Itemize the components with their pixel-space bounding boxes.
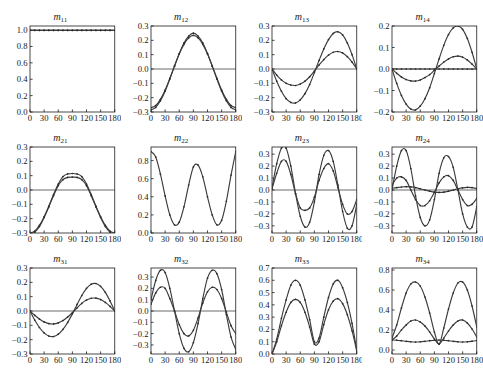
svg-text:0.7: 0.7 bbox=[258, 263, 269, 273]
svg-text:180: 180 bbox=[471, 355, 483, 365]
svg-text:60: 60 bbox=[295, 234, 304, 244]
svg-text:60: 60 bbox=[416, 355, 425, 365]
svg-text:0.6: 0.6 bbox=[258, 275, 269, 285]
subplot-canvas-m_14: −0.2−0.10.00.10.20306090120150180 bbox=[362, 9, 483, 130]
svg-text:120: 120 bbox=[80, 234, 93, 244]
svg-text:0.1: 0.1 bbox=[138, 50, 149, 60]
svg-text:−0.1: −0.1 bbox=[133, 317, 149, 327]
svg-text:90: 90 bbox=[189, 113, 198, 123]
svg-text:−0.3: −0.3 bbox=[12, 349, 28, 359]
svg-text:60: 60 bbox=[295, 355, 304, 365]
svg-text:0.8: 0.8 bbox=[17, 41, 28, 51]
svg-text:−0.3: −0.3 bbox=[374, 221, 390, 231]
svg-text:0.2: 0.2 bbox=[379, 161, 390, 171]
svg-text:0.0: 0.0 bbox=[17, 306, 28, 316]
subplot-canvas-m_24: −0.3−0.2−0.10.00.10.20.30306090120150180 bbox=[362, 130, 483, 251]
svg-text:60: 60 bbox=[416, 113, 425, 123]
svg-text:90: 90 bbox=[189, 234, 198, 244]
svg-text:0.2: 0.2 bbox=[17, 277, 28, 287]
svg-text:30: 30 bbox=[402, 113, 411, 123]
svg-text:60: 60 bbox=[175, 355, 184, 365]
svg-text:30: 30 bbox=[281, 355, 290, 365]
svg-text:−0.1: −0.1 bbox=[374, 86, 390, 96]
svg-text:150: 150 bbox=[456, 355, 469, 365]
svg-text:0.0: 0.0 bbox=[138, 306, 149, 316]
svg-text:0.6: 0.6 bbox=[17, 58, 28, 68]
subplot-m_23: m23−0.3−0.2−0.10.00.10.20.30306090120150… bbox=[242, 130, 363, 251]
svg-text:0.2: 0.2 bbox=[258, 35, 269, 45]
svg-text:0.0: 0.0 bbox=[379, 185, 390, 195]
svg-text:60: 60 bbox=[175, 234, 184, 244]
svg-text:30: 30 bbox=[40, 113, 49, 123]
svg-text:0.3: 0.3 bbox=[258, 21, 269, 31]
svg-text:0.1: 0.1 bbox=[379, 173, 390, 183]
svg-text:150: 150 bbox=[215, 113, 228, 123]
svg-text:90: 90 bbox=[430, 355, 439, 365]
subplot-canvas-m_23: −0.3−0.2−0.10.00.10.20.30306090120150180 bbox=[242, 130, 363, 251]
svg-text:150: 150 bbox=[94, 355, 107, 365]
curve-m_13-curve-small bbox=[272, 51, 357, 85]
svg-text:0: 0 bbox=[149, 113, 153, 123]
svg-text:180: 180 bbox=[471, 234, 483, 244]
svg-text:−0.2: −0.2 bbox=[374, 107, 390, 117]
svg-text:150: 150 bbox=[456, 113, 469, 123]
svg-text:0.1: 0.1 bbox=[138, 295, 149, 305]
curve-m_22-curve-1 bbox=[151, 152, 236, 226]
svg-text:60: 60 bbox=[295, 113, 304, 123]
svg-text:60: 60 bbox=[54, 234, 63, 244]
subplot-m_21: m21−0.3−0.2−0.10.00.10.20.30306090120150… bbox=[0, 130, 121, 251]
clipped-caption-strip bbox=[0, 0, 483, 9]
svg-text:30: 30 bbox=[281, 113, 290, 123]
svg-text:−0.3: −0.3 bbox=[133, 107, 149, 117]
svg-text:0: 0 bbox=[28, 234, 32, 244]
svg-text:150: 150 bbox=[336, 113, 349, 123]
svg-text:0.6: 0.6 bbox=[379, 285, 390, 295]
svg-text:30: 30 bbox=[161, 355, 170, 365]
svg-text:120: 120 bbox=[201, 113, 214, 123]
svg-text:0.0: 0.0 bbox=[379, 64, 390, 74]
svg-text:180: 180 bbox=[350, 234, 362, 244]
svg-text:0.1: 0.1 bbox=[17, 171, 28, 181]
svg-text:−0.2: −0.2 bbox=[253, 209, 269, 219]
subplot-canvas-m_31: −0.3−0.2−0.10.00.10.20.30306090120150180 bbox=[0, 251, 121, 372]
svg-text:0: 0 bbox=[149, 234, 153, 244]
curve-m_12-curve-1 bbox=[151, 35, 236, 107]
svg-text:−0.1: −0.1 bbox=[253, 78, 269, 88]
svg-text:−0.2: −0.2 bbox=[253, 93, 269, 103]
svg-text:−0.2: −0.2 bbox=[12, 214, 28, 224]
svg-text:180: 180 bbox=[229, 234, 241, 244]
svg-text:−0.3: −0.3 bbox=[253, 107, 269, 117]
svg-text:120: 120 bbox=[322, 234, 335, 244]
svg-text:0.2: 0.2 bbox=[379, 325, 390, 335]
curve-m_23-curve-small bbox=[272, 160, 357, 215]
svg-text:150: 150 bbox=[215, 355, 228, 365]
svg-text:−0.1: −0.1 bbox=[374, 197, 390, 207]
curve-m_13-curve-large bbox=[272, 32, 357, 103]
svg-text:−0.2: −0.2 bbox=[374, 209, 390, 219]
svg-text:120: 120 bbox=[322, 355, 335, 365]
subplot-canvas-m_32: −0.3−0.2−0.10.00.10.20.30306090120150180 bbox=[121, 251, 242, 372]
svg-text:30: 30 bbox=[40, 355, 49, 365]
svg-text:30: 30 bbox=[281, 234, 290, 244]
subplot-m_33: m330.00.10.20.30.40.50.60.70306090120150… bbox=[242, 251, 363, 372]
svg-text:0: 0 bbox=[28, 113, 32, 123]
svg-text:0.2: 0.2 bbox=[138, 210, 149, 220]
curve-m_14-curve-large bbox=[392, 26, 477, 110]
svg-text:0.0: 0.0 bbox=[17, 185, 28, 195]
svg-text:1.0: 1.0 bbox=[17, 25, 28, 35]
svg-text:120: 120 bbox=[442, 113, 455, 123]
svg-text:180: 180 bbox=[108, 113, 120, 123]
svg-text:0: 0 bbox=[269, 113, 273, 123]
svg-text:150: 150 bbox=[94, 234, 107, 244]
svg-text:180: 180 bbox=[108, 234, 120, 244]
svg-text:−0.1: −0.1 bbox=[12, 199, 28, 209]
curve-m_23-curve-large bbox=[272, 146, 357, 229]
svg-text:150: 150 bbox=[215, 234, 228, 244]
svg-text:30: 30 bbox=[402, 355, 411, 365]
svg-text:0.0: 0.0 bbox=[258, 64, 269, 74]
subplot-canvas-m_12: −0.3−0.2−0.10.00.10.20.30306090120150180 bbox=[121, 9, 242, 130]
curve-m_21-curve-2 bbox=[30, 177, 115, 234]
svg-text:0: 0 bbox=[390, 234, 394, 244]
svg-text:0.2: 0.2 bbox=[17, 91, 28, 101]
svg-text:120: 120 bbox=[201, 234, 214, 244]
